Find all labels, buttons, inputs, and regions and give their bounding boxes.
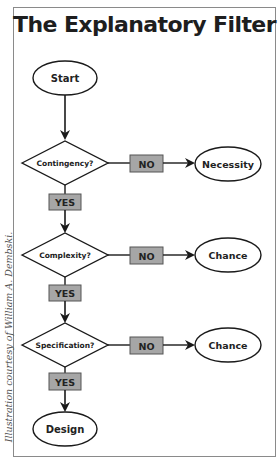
chance-label-2: Chance xyxy=(209,340,248,351)
complexity-question: Complexity? xyxy=(39,251,91,260)
chance-node-1: Chance xyxy=(195,238,261,272)
decision-specification: Specification? xyxy=(22,323,108,367)
specification-question: Specification? xyxy=(36,341,95,350)
yes-label-box-2: YES xyxy=(49,285,81,301)
necessity-node: Necessity xyxy=(195,147,261,181)
no-label-box-2: NO xyxy=(130,247,163,264)
design-label: Design xyxy=(46,424,85,435)
no-label-box-3: NO xyxy=(130,337,163,354)
decision-contingency: Contingency? xyxy=(22,141,108,185)
decision-complexity: Complexity? xyxy=(22,233,108,277)
chance-node-2: Chance xyxy=(195,328,261,362)
no-label-box-1: NO xyxy=(130,155,163,172)
yes-label-box-1: YES xyxy=(49,194,81,210)
no-label-2: NO xyxy=(138,251,154,262)
start-node: Start xyxy=(33,61,97,95)
contingency-question: Contingency? xyxy=(37,159,94,168)
start-label: Start xyxy=(51,73,80,84)
necessity-label: Necessity xyxy=(202,159,255,170)
design-node: Design xyxy=(33,412,97,446)
yes-label-3: YES xyxy=(54,377,75,388)
flowchart: Start Contingency? NO Necessity YES Comp… xyxy=(0,0,280,460)
yes-label-box-3: YES xyxy=(49,373,81,390)
yes-label-1: YES xyxy=(54,197,75,208)
yes-label-2: YES xyxy=(54,288,75,299)
chance-label-1: Chance xyxy=(209,250,248,261)
no-label-3: NO xyxy=(138,341,154,352)
no-label-1: NO xyxy=(138,159,154,170)
